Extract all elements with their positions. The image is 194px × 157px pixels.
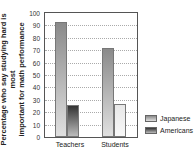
y-axis-label-line2: important for math performance (17, 10, 26, 150)
bar-teachers-americans (67, 105, 79, 137)
legend-americans: Americans (145, 127, 193, 134)
legend-japanese: Japanese (145, 115, 190, 122)
bar-students-americans (114, 104, 126, 137)
y-tick-label: 30 (20, 96, 40, 103)
y-tick-label: 60 (20, 59, 40, 66)
y-axis-label: Percentage who say studying hard is most… (0, 10, 26, 150)
x-label-teachers: Teachers (50, 141, 90, 148)
y-tick-label: 20 (20, 109, 40, 116)
y-tick-label: 0 (20, 134, 40, 141)
legend-label-japanese: Japanese (160, 115, 190, 122)
legend-label-americans: Americans (160, 127, 193, 134)
legend-swatch-japanese (145, 115, 157, 122)
plot-area (44, 12, 138, 138)
y-tick-label: 40 (20, 84, 40, 91)
y-tick-label: 70 (20, 47, 40, 54)
bar-teachers-japanese (55, 22, 67, 137)
y-tick-label: 10 (20, 121, 40, 128)
y-tick-label: 90 (20, 22, 40, 29)
y-tick-label: 50 (20, 72, 40, 79)
bar-students-japanese (102, 48, 114, 137)
legend-swatch-americans (145, 127, 157, 134)
y-axis-label-line1: Percentage who say studying hard is most (0, 10, 17, 150)
y-tick-label: 100 (20, 10, 40, 17)
y-tick-label: 80 (20, 34, 40, 41)
x-label-students: Students (95, 141, 135, 148)
